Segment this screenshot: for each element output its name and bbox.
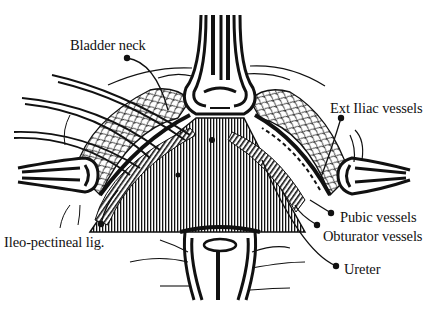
lower-funnel bbox=[180, 227, 260, 300]
label-ureter: Ureter bbox=[344, 262, 380, 277]
label-ileo-pectineal-lig: Ileo-pectineal lig. bbox=[4, 235, 104, 250]
anatomy-diagram: Bladder neck Ext Iliac vessels Ileo-pect… bbox=[0, 0, 438, 309]
right-lateral-funnel bbox=[338, 158, 410, 194]
upper-funnel bbox=[184, 15, 255, 114]
label-obturator-vessels: Obturator vessels bbox=[323, 229, 422, 244]
label-pubic-vessels: Pubic vessels bbox=[340, 210, 416, 225]
left-lateral-funnel bbox=[18, 158, 98, 192]
label-bladder-neck: Bladder neck bbox=[70, 38, 146, 53]
label-ext-iliac-vessels: Ext Iliac vessels bbox=[330, 101, 423, 116]
